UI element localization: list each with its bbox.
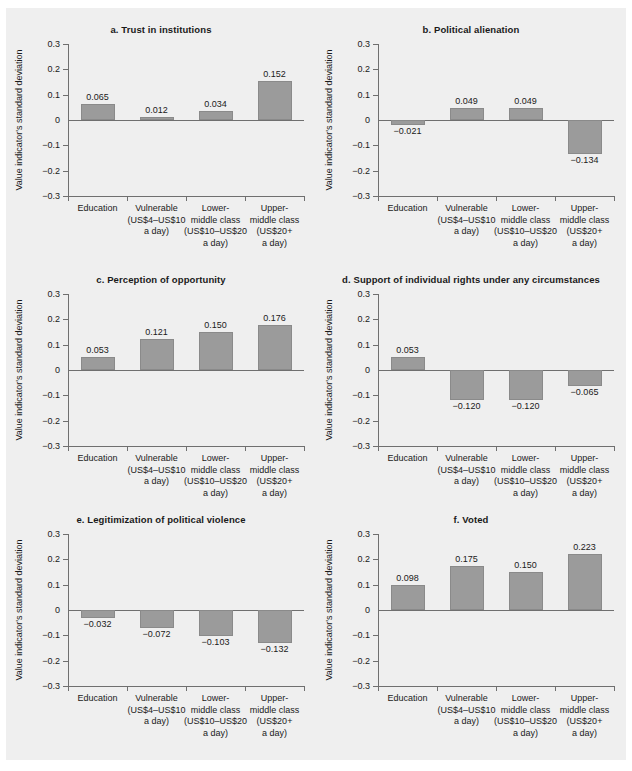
bar [81, 357, 115, 370]
x-category-label-line: a day) [437, 226, 495, 238]
bar-value-label: −0.120 [512, 401, 540, 411]
y-tick-label: 0 [55, 365, 60, 375]
bar [391, 357, 425, 370]
y-tick-label: 0.3 [357, 289, 370, 299]
y-axis-label: Value indicator's standard deviation [14, 534, 28, 686]
x-category-label-line: (US$20+ [560, 226, 610, 238]
bar [450, 108, 484, 120]
x-category-label: Upper-middle class(US$20+a day) [250, 693, 300, 739]
y-tick-label: −0.1 [42, 630, 60, 640]
bar [258, 81, 292, 120]
y-tick-mark [63, 171, 68, 172]
panel-title: d. Support of individual rights under an… [316, 274, 626, 285]
x-tick-mark [127, 196, 128, 201]
plot-area: 0.30.20.10−0.1−0.2−0.30.053−0.120−0.120−… [378, 294, 614, 446]
bar-value-label: 0.049 [514, 96, 537, 106]
panel-f: f. VotedValue indicator's standard devia… [316, 508, 626, 758]
y-tick-label: −0.2 [352, 416, 370, 426]
y-tick-label: −0.3 [352, 191, 370, 201]
y-tick-label: −0.2 [352, 656, 370, 666]
x-category-label-line: Education [77, 453, 117, 465]
plot-area: 0.30.20.10−0.1−0.2−0.30.0980.1750.1500.2… [378, 534, 614, 686]
x-category-label-line: (US$10–US$20 [184, 716, 247, 728]
x-category-label-line: Lower- [494, 453, 557, 465]
x-category-label: Education [387, 203, 427, 215]
x-category-label-line: (US$4–US$10 [437, 465, 495, 477]
x-category-label-line: Lower- [494, 693, 557, 705]
x-category-label: Education [77, 203, 117, 215]
zero-line [68, 370, 304, 371]
x-category-label: Education [77, 453, 117, 465]
bar-value-label: 0.150 [514, 560, 537, 570]
x-category-label-line: a day) [494, 728, 557, 740]
x-tick-mark [555, 446, 556, 451]
x-tick-mark [437, 446, 438, 451]
bar-value-label: 0.223 [573, 542, 596, 552]
x-tick-mark [437, 196, 438, 201]
x-category-label: Upper-middle class(US$20+a day) [250, 453, 300, 499]
x-tick-mark [68, 686, 69, 691]
bar [509, 108, 543, 120]
y-tick-mark [63, 145, 68, 146]
y-tick-label: 0.1 [47, 90, 60, 100]
x-tick-mark [378, 446, 379, 451]
y-tick-mark [373, 69, 378, 70]
x-category-label-line: middle class [494, 705, 557, 717]
x-tick-mark [555, 196, 556, 201]
x-category-label-line: middle class [250, 465, 300, 477]
y-tick-label: −0.2 [42, 656, 60, 666]
panel-c: c. Perception of opportunityValue indica… [6, 268, 316, 518]
x-category-label-line: a day) [560, 488, 610, 500]
x-category-label: Lower-middle class(US$10–US$20a day) [184, 453, 247, 499]
x-category-label-line: (US$4–US$10 [437, 215, 495, 227]
x-category-label-line: middle class [560, 705, 610, 717]
y-tick-mark [63, 44, 68, 45]
x-category-label-line: a day) [250, 238, 300, 250]
x-tick-mark [245, 686, 246, 691]
x-category-label-line: a day) [494, 238, 557, 250]
x-category-label-line: Education [77, 203, 117, 215]
y-tick-label: 0 [55, 605, 60, 615]
bar-value-label: 0.065 [86, 92, 109, 102]
x-category-label: Vulnerable(US$4–US$10a day) [127, 453, 185, 488]
x-tick-mark [555, 686, 556, 691]
y-tick-label: 0 [55, 115, 60, 125]
y-tick-label: 0.2 [47, 554, 60, 564]
x-tick-mark [496, 196, 497, 201]
x-category-label: Lower-middle class(US$10–US$20a day) [184, 693, 247, 739]
y-tick-mark [373, 421, 378, 422]
bar [199, 610, 233, 636]
bar-value-label: −0.103 [202, 637, 230, 647]
x-category-label: Lower-middle class(US$10–US$20a day) [494, 203, 557, 249]
x-category-label: Education [77, 693, 117, 705]
y-tick-mark [63, 294, 68, 295]
y-tick-label: −0.3 [42, 191, 60, 201]
panel-a: a. Trust in institutionsValue indicator'… [6, 18, 316, 268]
y-tick-mark [63, 559, 68, 560]
bar-value-label: −0.120 [453, 401, 481, 411]
y-axis-label: Value indicator's standard deviation [14, 294, 28, 446]
x-category-label-line: (US$20+ [560, 476, 610, 488]
x-category-label-line: a day) [127, 476, 185, 488]
x-category-label-line: (US$4–US$10 [127, 215, 185, 227]
x-category-label: Upper-middle class(US$20+a day) [560, 203, 610, 249]
y-tick-mark [373, 585, 378, 586]
y-tick-mark [373, 294, 378, 295]
y-tick-mark [63, 635, 68, 636]
x-tick-mark [68, 446, 69, 451]
x-category-label-line: Upper- [560, 693, 610, 705]
y-tick-label: −0.1 [352, 390, 370, 400]
panel-title: b. Political alienation [316, 24, 626, 35]
x-tick-mark [186, 686, 187, 691]
y-tick-label: 0.1 [357, 580, 370, 590]
x-tick-mark [304, 686, 305, 691]
plot-area: 0.30.20.10−0.1−0.2−0.30.0650.0120.0340.1… [68, 44, 304, 196]
y-tick-label: −0.1 [42, 140, 60, 150]
x-tick-mark [186, 196, 187, 201]
x-category-label-line: Vulnerable [437, 203, 495, 215]
y-tick-mark [373, 171, 378, 172]
y-tick-mark [63, 319, 68, 320]
bar-value-label: 0.012 [145, 105, 168, 115]
y-tick-label: −0.3 [42, 441, 60, 451]
x-category-label-line: Vulnerable [127, 203, 185, 215]
